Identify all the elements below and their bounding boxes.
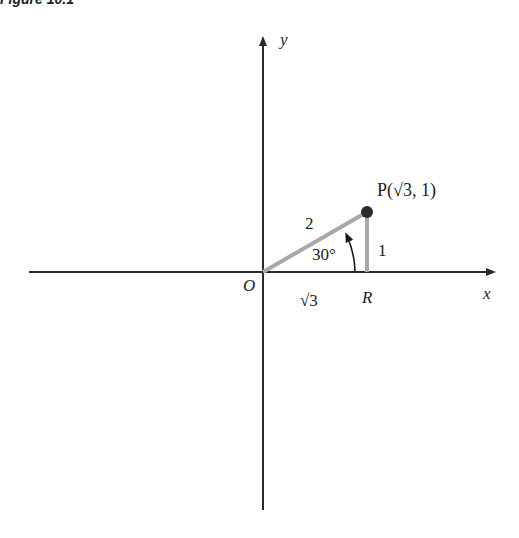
origin-label: O: [243, 276, 255, 296]
x-axis-label: x: [483, 284, 491, 304]
point-p-label: P(√3, 1): [377, 180, 436, 201]
point-p: [361, 206, 373, 218]
angle-arc: [347, 236, 355, 272]
opposite-label: 1: [378, 241, 387, 261]
angle-label: 30°: [312, 245, 336, 265]
y-axis-label: y: [280, 30, 288, 50]
hypotenuse-label: 2: [305, 214, 314, 234]
coordinate-diagram: [0, 0, 519, 538]
adjacent-label: √3: [300, 291, 318, 311]
foot-r-label: R: [362, 288, 372, 308]
